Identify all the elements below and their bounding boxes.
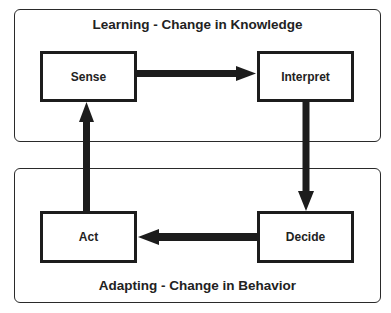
adapting-group-title: Adapting - Change in Behavior [15, 278, 380, 293]
sense-node: Sense [40, 51, 137, 102]
decide-node: Decide [257, 211, 354, 263]
decide-label: Decide [286, 230, 325, 244]
learning-group-title: Learning - Change in Knowledge [15, 17, 380, 32]
act-label: Act [79, 230, 98, 244]
interpret-label: Interpret [281, 70, 330, 84]
interpret-node: Interpret [257, 51, 354, 102]
sense-label: Sense [71, 70, 106, 84]
act-node: Act [40, 211, 137, 263]
